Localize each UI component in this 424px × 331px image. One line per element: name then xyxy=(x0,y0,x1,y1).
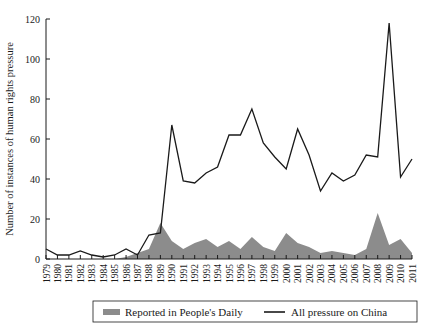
x-axis-tick-label: 1992 xyxy=(190,264,200,283)
x-axis-tick-label: 1985 xyxy=(110,264,120,283)
x-axis-tick-label: 2006 xyxy=(350,264,360,283)
legend-label-all-pressure-on-china: All pressure on China xyxy=(291,306,387,318)
y-axis-tick-label: 120 xyxy=(25,14,40,25)
legend-swatch-reported-in-peoples-daily xyxy=(103,309,120,315)
chart-figure: 0204060801001201979198019811982198319841… xyxy=(0,0,424,331)
x-axis-tick-label: 2002 xyxy=(305,264,315,283)
x-axis-tick-label: 1991 xyxy=(179,264,189,283)
x-axis-tick-label: 1984 xyxy=(99,264,109,283)
y-axis-tick-label: 80 xyxy=(30,94,40,105)
x-axis-tick-label: 1981 xyxy=(64,264,74,283)
x-axis-tick-label: 1993 xyxy=(202,264,212,283)
x-axis-tick-label: 1986 xyxy=(122,264,132,283)
x-axis-tick-label: 1994 xyxy=(213,264,223,283)
x-axis-tick-label: 2007 xyxy=(362,264,372,283)
x-axis-tick-label: 2003 xyxy=(316,264,326,283)
x-axis-tick-label: 1980 xyxy=(53,264,63,283)
x-axis-tick-label: 2001 xyxy=(293,264,303,283)
x-axis-tick-label: 1998 xyxy=(259,264,269,283)
x-axis-tick-label: 2011 xyxy=(408,264,418,283)
human-rights-pressure-chart: 0204060801001201979198019811982198319841… xyxy=(0,0,424,331)
y-axis-tick-label: 60 xyxy=(30,134,40,145)
legend-label-reported-in-peoples-daily: Reported in People's Daily xyxy=(125,306,243,318)
x-axis-tick-label: 2004 xyxy=(327,264,337,283)
series-area-reported-in-peoples-daily xyxy=(46,213,412,259)
x-axis-tick-label: 2000 xyxy=(282,264,292,283)
x-axis-tick-label: 1987 xyxy=(133,264,143,283)
x-axis-tick-label: 2005 xyxy=(339,264,349,283)
x-axis-tick-label: 2010 xyxy=(396,264,406,283)
y-axis-title: Number of instances of human rights pres… xyxy=(4,42,15,236)
x-axis-tick-label: 1997 xyxy=(247,264,257,283)
x-axis-tick-label: 1996 xyxy=(236,264,246,283)
series-line-all-pressure-on-china xyxy=(46,23,412,257)
x-axis-tick-label: 2009 xyxy=(385,264,395,283)
x-axis-tick-label: 1995 xyxy=(225,264,235,283)
x-axis-tick-label: 1990 xyxy=(167,264,177,283)
x-axis-tick-label: 1999 xyxy=(270,264,280,283)
x-axis-tick-label: 1983 xyxy=(87,264,97,283)
y-axis-tick-label: 100 xyxy=(25,54,40,65)
x-axis-tick-label: 1989 xyxy=(156,264,166,283)
y-axis-tick-label: 40 xyxy=(30,174,40,185)
y-axis-tick-label: 0 xyxy=(35,254,40,265)
x-axis-tick-label: 1988 xyxy=(144,264,154,283)
x-axis-tick-label: 1979 xyxy=(42,264,52,283)
y-axis-tick-label: 20 xyxy=(30,214,40,225)
x-axis-tick-label: 2008 xyxy=(373,264,383,283)
x-axis-tick-label: 1982 xyxy=(76,264,86,283)
